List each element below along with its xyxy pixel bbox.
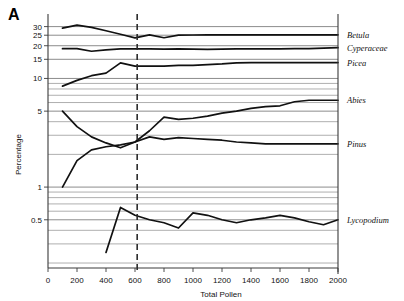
series-line-abies — [63, 100, 339, 148]
x-axis-title: Total Pollen — [200, 290, 241, 299]
y-tick-label: 20 — [33, 42, 42, 51]
x-tick-labels-group: 0200400600800100012001400160018002000 — [46, 276, 348, 285]
series-label-abies: Abies — [346, 95, 367, 105]
y-tick-label: 25 — [33, 31, 42, 40]
x-tick-label: 400 — [99, 276, 113, 285]
y-tick-label: 10 — [33, 74, 42, 83]
series-labels-group: BetulaCyperaceaePiceaAbiesPinusLycopodiu… — [346, 30, 389, 225]
y-tick-label: 30 — [33, 23, 42, 32]
x-tick-label: 1800 — [300, 276, 318, 285]
series-line-picea — [63, 63, 339, 87]
x-axis-group — [48, 268, 338, 272]
chart-canvas: 0.5151015202530 020040060080010001200140… — [0, 0, 404, 301]
series-label-cyperaceae: Cyperaceae — [347, 43, 388, 53]
x-tick-label: 1200 — [213, 276, 231, 285]
series-line-cyperaceae — [63, 48, 339, 52]
y-tick-label: 15 — [33, 55, 42, 64]
series-label-picea: Picea — [346, 58, 366, 68]
y-tick-label: 0.5 — [31, 216, 43, 225]
series-label-lycopodium: Lycopodium — [346, 215, 389, 225]
y-tick-label: 1 — [38, 183, 43, 192]
x-tick-label: 1400 — [242, 276, 260, 285]
x-tick-label: 1600 — [271, 276, 289, 285]
series-label-pinus: Pinus — [346, 139, 367, 149]
x-tick-label: 200 — [70, 276, 84, 285]
x-tick-label: 1000 — [184, 276, 202, 285]
x-tick-label: 2000 — [329, 276, 347, 285]
series-line-lycopodium — [106, 207, 338, 252]
series-label-betula: Betula — [347, 30, 369, 40]
x-tick-label: 600 — [128, 276, 142, 285]
y-tick-labels-group: 0.5151015202530 — [31, 23, 43, 225]
y-tickmarks-group — [44, 27, 48, 220]
y-tick-label: 5 — [38, 107, 43, 116]
series-line-pinus — [63, 137, 339, 187]
x-tick-label: 0 — [46, 276, 51, 285]
x-tick-label: 800 — [157, 276, 171, 285]
figure-panel-a: A Percentage 0.5151015202530 02004006008… — [0, 0, 404, 301]
